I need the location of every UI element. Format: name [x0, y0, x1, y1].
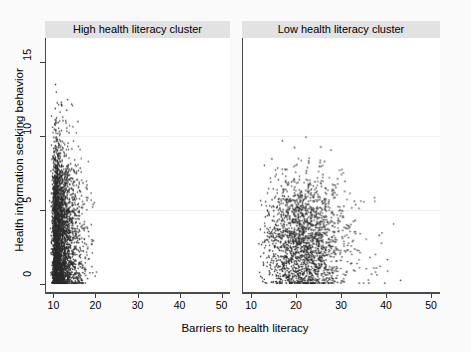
x-tick-mark-0-50 — [222, 294, 223, 298]
x-tick-mark-0-10 — [53, 294, 54, 298]
panel-title-high: High health literacy cluster — [45, 21, 230, 38]
x-tick-label-1-10: 10 — [239, 299, 263, 311]
scatter-plot-figure: Health information seeking behavior 0510… — [0, 0, 471, 352]
scatter-points-high — [46, 38, 230, 292]
x-tick-label-1-30: 30 — [329, 299, 353, 311]
x-tick-mark-1-50 — [431, 294, 432, 298]
x-tick-mark-0-30 — [138, 294, 139, 298]
plot-area-high — [45, 38, 230, 293]
x-axis-label: Barriers to health literacy — [45, 322, 445, 334]
y-tick-label-5: 5 — [21, 197, 33, 219]
x-tick-mark-1-40 — [386, 294, 387, 298]
panel-high-health-literacy: High health literacy cluster — [45, 21, 230, 293]
y-tick-label-15: 15 — [21, 49, 33, 71]
x-tick-mark-1-20 — [296, 294, 297, 298]
x-tick-mark-1-30 — [341, 294, 342, 298]
panel-low-health-literacy: Low health literacy cluster — [242, 21, 440, 293]
x-tick-label-1-20: 20 — [284, 299, 308, 311]
x-tick-label-1-50: 50 — [419, 299, 443, 311]
y-tick-label-0: 0 — [21, 271, 33, 293]
x-tick-label-0-40: 40 — [168, 299, 192, 311]
x-tick-label-0-50: 50 — [210, 299, 234, 311]
y-tick-label-10: 10 — [21, 123, 33, 145]
x-tick-mark-1-10 — [251, 294, 252, 298]
x-tick-label-0-30: 30 — [126, 299, 150, 311]
plot-area-low — [242, 38, 440, 293]
x-tick-label-0-20: 20 — [83, 299, 107, 311]
panel-title-low: Low health literacy cluster — [242, 21, 440, 38]
x-tick-label-1-40: 40 — [374, 299, 398, 311]
scatter-points-low — [243, 38, 440, 292]
x-tick-mark-0-20 — [95, 294, 96, 298]
x-tick-label-0-10: 10 — [41, 299, 65, 311]
x-tick-mark-0-40 — [180, 294, 181, 298]
